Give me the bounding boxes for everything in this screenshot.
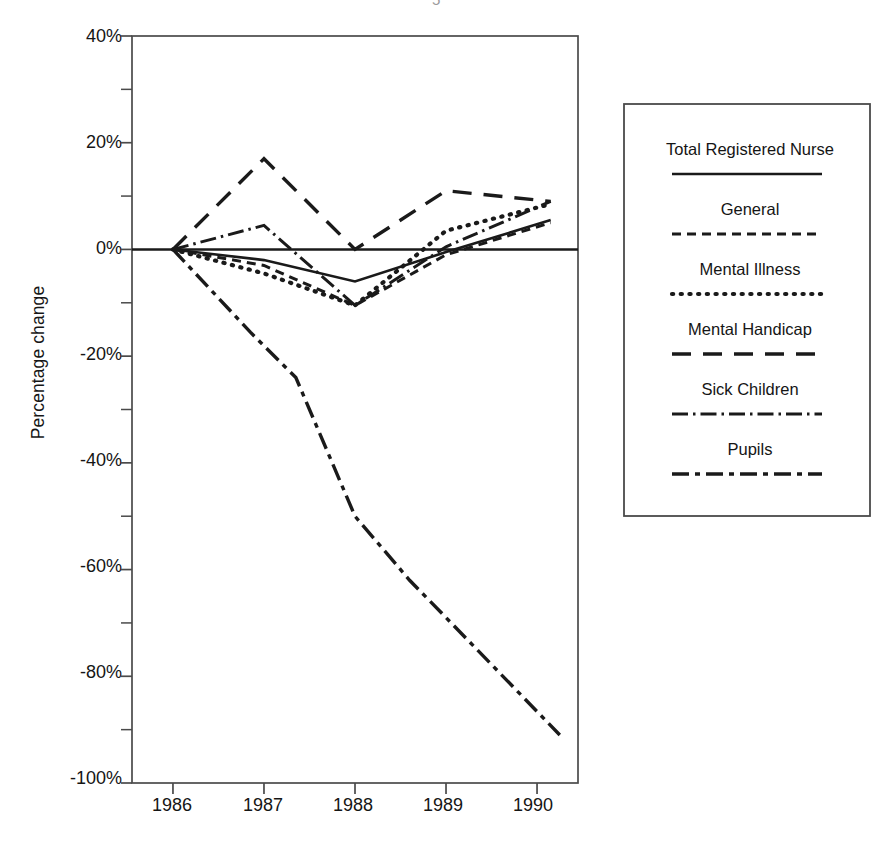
plot-canvas (0, 0, 890, 857)
axes-layer (121, 36, 578, 794)
series-line-total-registered-nurse (173, 220, 551, 281)
chart-figure: 5 Percentage change 40% 20% 0% -20% -40%… (0, 0, 890, 857)
series-line-mental-illness (173, 204, 551, 305)
legend-box (624, 104, 870, 516)
plot-frame (132, 36, 578, 783)
series-layer (173, 159, 560, 735)
series-line-pupils (173, 249, 560, 735)
legend-frame (624, 104, 870, 516)
